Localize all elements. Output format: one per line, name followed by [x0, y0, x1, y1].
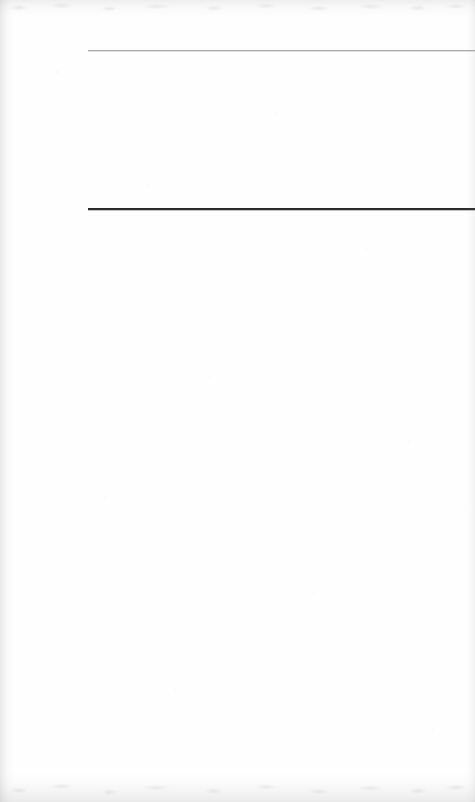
lower-rule [88, 208, 475, 210]
upper-rule [88, 50, 475, 51]
scanned-document-page [0, 0, 475, 802]
paper-background [0, 0, 475, 802]
